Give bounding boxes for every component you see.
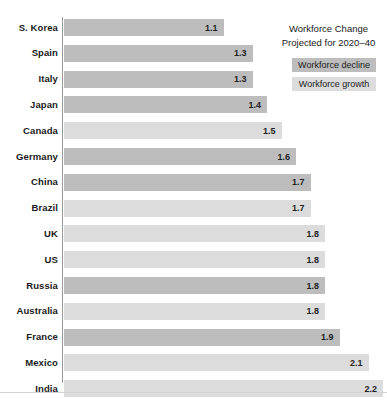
bar-row: Australia1.8 — [0, 303, 387, 320]
bar-decline: 1.3 — [64, 71, 253, 88]
bar-row: Mexico2.1 — [0, 354, 387, 371]
bar-value-label: 1.7 — [292, 204, 305, 213]
bar-growth: 1.8 — [64, 303, 325, 320]
bar-row: Brazil1.7 — [0, 200, 387, 217]
bar-row-label: Russia — [0, 281, 58, 291]
bar-value-label: 1.6 — [277, 152, 290, 161]
legend-entry-workforce-decline-label: Workforce decline — [292, 61, 376, 70]
legend-title-line-1: Workforce Change — [270, 22, 387, 36]
bar-value-label: 1.8 — [306, 229, 319, 238]
bar-row-label: Brazil — [0, 203, 58, 213]
legend-entry-workforce-growth: Workforce growth — [292, 77, 376, 91]
bar-row-label: France — [0, 332, 58, 342]
bar-growth: 1.8 — [64, 251, 325, 268]
chart-legend: Workforce Change Projected for 2020–40 W… — [270, 22, 387, 50]
bar-value-label: 1.8 — [306, 281, 319, 290]
bar-value-label: 1.5 — [263, 126, 276, 135]
bar-row-label: Canada — [0, 126, 58, 136]
bar-row: US1.8 — [0, 251, 387, 268]
bar-row-label: Japan — [0, 100, 58, 110]
bar-row: Japan1.4 — [0, 96, 387, 113]
bar-value-label: 1.3 — [234, 49, 247, 58]
bar-row-label: Italy — [0, 74, 58, 84]
bar-growth: 1.5 — [64, 122, 282, 139]
footer-divider — [0, 392, 387, 393]
workforce-change-bar-chart: S. Korea1.1Spain1.3Italy1.3Japan1.4Canad… — [0, 0, 387, 406]
bar-row-label: UK — [0, 229, 58, 239]
bar-growth: 2.1 — [64, 354, 369, 371]
legend-entry-workforce-decline: Workforce decline — [292, 58, 376, 72]
bar-row-label: Australia — [0, 307, 58, 317]
bar-value-label: 1.9 — [321, 333, 334, 342]
bar-value-label: 1.3 — [234, 75, 247, 84]
bar-row-label: Spain — [0, 49, 58, 59]
bar-row: Canada1.5 — [0, 122, 387, 139]
bar-decline: 1.8 — [64, 277, 325, 294]
bar-decline: 1.6 — [64, 148, 296, 165]
bar-row: China1.7 — [0, 174, 387, 191]
bar-row-label: US — [0, 255, 58, 265]
bar-value-label: 1.8 — [306, 255, 319, 264]
bar-decline: 1.7 — [64, 174, 311, 191]
bar-row: Germany1.6 — [0, 148, 387, 165]
bar-value-label: 1.4 — [248, 100, 261, 109]
bar-decline: 1.1 — [64, 19, 224, 36]
bar-value-label: 1.1 — [205, 23, 218, 32]
bar-value-label: 1.8 — [306, 307, 319, 316]
bar-decline: 1.4 — [64, 96, 267, 113]
legend-entry-workforce-growth-label: Workforce growth — [292, 80, 376, 89]
bar-row-label: Mexico — [0, 358, 58, 368]
bar-row: Russia1.8 — [0, 277, 387, 294]
bar-growth: 1.7 — [64, 200, 311, 217]
bar-row: France1.9 — [0, 329, 387, 346]
bar-row-label: China — [0, 178, 58, 188]
legend-title-line-2: Projected for 2020–40 — [270, 36, 387, 50]
bar-decline: 1.3 — [64, 45, 253, 62]
bar-row: India2.2 — [0, 380, 387, 397]
bar-row-label: S. Korea — [0, 23, 58, 33]
bar-growth: 1.8 — [64, 225, 325, 242]
bar-value-label: 1.7 — [292, 178, 305, 187]
bar-decline: 1.9 — [64, 329, 340, 346]
bar-growth: 2.2 — [64, 380, 383, 397]
bar-value-label: 2.1 — [350, 358, 363, 367]
bar-row-label: Germany — [0, 152, 58, 162]
bar-row: UK1.8 — [0, 225, 387, 242]
